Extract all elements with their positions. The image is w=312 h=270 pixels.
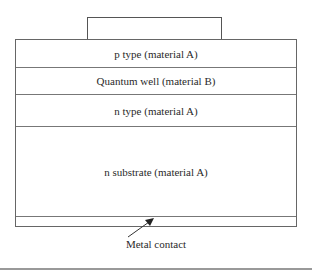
layer-n-substrate-label: n substrate (material A) [104,166,208,178]
layer-p-type: p type (material A) [16,40,296,67]
layer-n-type: n type (material A) [16,95,296,126]
layer-quantum-well: Quantum well (material B) [16,68,296,94]
top-metal-contact [87,17,222,39]
layer-stack: p type (material A) Quantum well (materi… [15,39,297,227]
layer-n-substrate: n substrate (material A) [16,127,296,216]
layer-bottom-metal-contact [16,217,296,226]
metal-contact-label: Metal contact [120,238,192,250]
layer-quantum-well-label: Quantum well (material B) [97,75,216,87]
layer-p-type-label: p type (material A) [114,48,197,60]
layer-n-type-label: n type (material A) [114,105,197,117]
